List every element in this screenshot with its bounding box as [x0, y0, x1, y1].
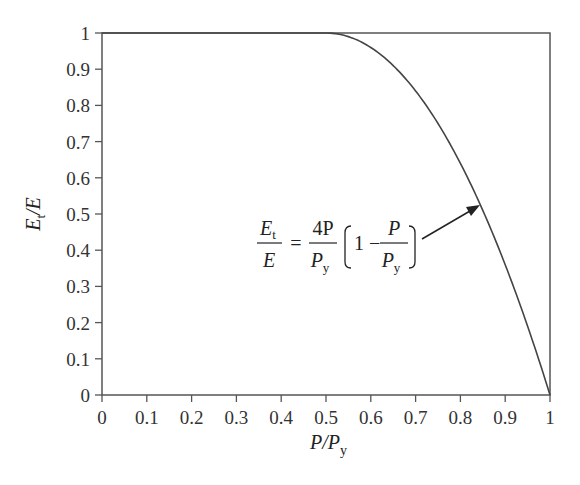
svg-text:Py: Py: [381, 249, 401, 275]
y-tick-label: 0.2: [66, 313, 90, 334]
arrowhead-icon: [466, 205, 480, 216]
y-tick-label: 0.7: [66, 132, 90, 153]
y-tick-label: 0.9: [66, 59, 90, 80]
y-tick-label: 0: [81, 385, 91, 406]
svg-text:Py: Py: [310, 249, 330, 275]
y-axis-ticks: 00.10.20.30.40.50.60.70.80.91: [66, 23, 102, 406]
curve-et-over-e: [102, 33, 550, 395]
svg-text:1 −: 1 −: [354, 232, 380, 254]
formula-annotation: Et E = 4P Py 1 − P Py: [257, 217, 415, 275]
x-tick-label: 0.6: [359, 407, 383, 428]
y-tick-label: 0.4: [66, 240, 90, 261]
x-tick-label: 0.7: [404, 407, 428, 428]
x-tick-label: 0.8: [449, 407, 473, 428]
svg-text:4P: 4P: [312, 217, 333, 239]
x-axis-ticks: 00.10.20.30.40.50.60.70.80.91: [97, 395, 555, 428]
y-tick-label: 0.6: [66, 168, 90, 189]
annotation-arrow: [422, 205, 480, 239]
y-axis-label: Et/E: [22, 197, 48, 232]
svg-text:=: =: [290, 232, 301, 254]
x-axis-label: P/Py: [309, 431, 347, 458]
svg-text:E: E: [262, 249, 275, 271]
x-tick-label: 0.9: [493, 407, 517, 428]
x-tick-label: 0.1: [135, 407, 159, 428]
svg-text:P: P: [387, 217, 400, 239]
y-tick-label: 1: [81, 23, 91, 44]
svg-text:Et: Et: [259, 217, 276, 242]
chart: 00.10.20.30.40.50.60.70.80.91 00.10.20.3…: [0, 0, 580, 485]
y-tick-label: 0.5: [66, 204, 90, 225]
plot-frame: [102, 33, 550, 395]
x-tick-label: 0.3: [225, 407, 249, 428]
x-tick-label: 0.4: [269, 407, 293, 428]
y-tick-label: 0.3: [66, 276, 90, 297]
x-tick-label: 0: [97, 407, 107, 428]
x-tick-label: 0.2: [180, 407, 204, 428]
y-tick-label: 0.8: [66, 95, 90, 116]
x-tick-label: 0.5: [314, 407, 338, 428]
x-tick-label: 1: [545, 407, 555, 428]
y-tick-label: 0.1: [66, 349, 90, 370]
